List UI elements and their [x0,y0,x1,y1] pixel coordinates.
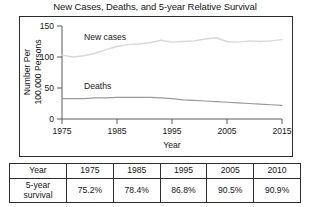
table-cell-survival-1975: 75.2% [67,179,114,203]
x-axis-title: Year [163,140,181,150]
row-label-line2: survival [23,190,52,200]
chart-title: New Cases, Deaths, and 5-year Relative S… [0,1,310,12]
chart-plot-frame: 150 100 50 0 1975 1985 1995 2005 2015 Ye… [19,16,293,157]
y-tick-label-0: 0 [49,114,54,124]
y-axis-title-line2: 100,000 Persons [33,40,43,105]
series-label-deaths: Deaths [84,81,111,91]
table-cell-survival-2005: 90.5% [207,179,254,203]
table-header-2005: 2005 [207,164,254,179]
table-header-1975: 1975 [67,164,114,179]
y-axis-ticks: 150 100 50 0 [40,21,62,124]
table-header-year: Year [10,164,67,179]
series-label-new-cases: New cases [84,32,126,42]
table-cell-survival-2010: 90.9% [254,179,301,203]
figure-container: New Cases, Deaths, and 5-year Relative S… [0,0,310,207]
x-axis-ticks: 1975 1985 1995 2005 2015 [52,119,291,136]
series-line-deaths [62,97,282,105]
row-label-line1: 5-year [26,180,50,190]
y-axis-title-line1: Number Per [22,49,32,95]
table-row-label-survival: 5-year survival [10,179,67,203]
table-header-1995: 1995 [160,164,207,179]
y-tick-label-50: 50 [44,83,54,93]
x-tick-label-1995: 1995 [162,126,181,136]
table-header-1985: 1985 [113,164,160,179]
table-cell-survival-1995: 86.8% [160,179,207,203]
line-chart-svg: 150 100 50 0 1975 1985 1995 2005 2015 Ye… [20,17,292,156]
survival-data-table: Year 1975 1985 1995 2005 2010 5-year sur… [9,163,301,203]
x-tick-label-2005: 2005 [217,126,236,136]
x-tick-label-2015: 2015 [272,126,291,136]
table-header-row: Year 1975 1985 1995 2005 2010 [10,164,301,179]
x-tick-label-1975: 1975 [52,126,71,136]
table-header-2010: 2010 [254,164,301,179]
table-cell-survival-1985: 78.4% [113,179,160,203]
x-tick-label-1985: 1985 [107,126,126,136]
table-row: 5-year survival 75.2% 78.4% 86.8% 90.5% … [10,179,301,203]
y-tick-label-150: 150 [40,21,55,31]
